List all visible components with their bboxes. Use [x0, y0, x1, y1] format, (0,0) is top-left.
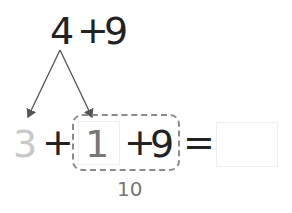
plus-sign-1: + — [42, 123, 74, 161]
faded-three: 3 — [13, 125, 37, 163]
group-sum-label: 10 — [117, 179, 142, 199]
nine: 9 — [150, 125, 174, 163]
equals-sign: = — [183, 123, 215, 161]
top-addend-b: 9 — [104, 12, 128, 50]
decomposition-arrows — [0, 0, 292, 213]
top-addend-a: 4 — [50, 12, 74, 50]
answer-box[interactable] — [216, 122, 278, 167]
left-arrow — [28, 50, 60, 117]
right-arrow — [60, 50, 92, 117]
part-value: 1 — [85, 125, 109, 163]
